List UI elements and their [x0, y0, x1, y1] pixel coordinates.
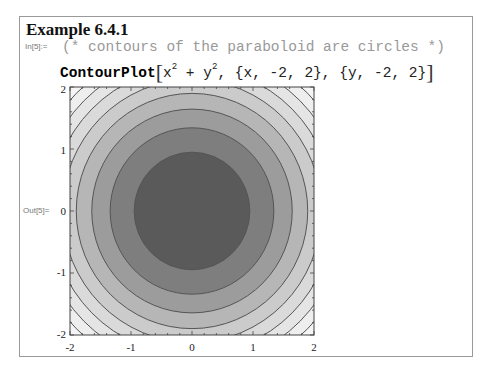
x-tick-label: 2	[311, 341, 317, 353]
y-tick-label: 1	[61, 144, 67, 156]
x-tick-label: 1	[250, 341, 256, 353]
contour-line	[134, 152, 250, 270]
y-tick-label: -1	[57, 266, 66, 278]
y-tick-label: 2	[61, 83, 67, 95]
x-tick-labels: -2 -1 0 1 2	[65, 341, 316, 353]
x-tick-label: -1	[126, 341, 135, 353]
contour-bands	[28, 45, 355, 378]
x-tick-label: 0	[189, 341, 195, 353]
x-tick-label: -2	[65, 341, 74, 353]
y-tick-labels: -2 -1 0 1 2	[57, 83, 67, 340]
y-tick-label: -2	[57, 328, 66, 340]
y-tick-label: 0	[61, 205, 67, 217]
contour-plot[interactable]: -2 -1 0 1 2 -2 -1 0 1 2	[0, 0, 494, 382]
